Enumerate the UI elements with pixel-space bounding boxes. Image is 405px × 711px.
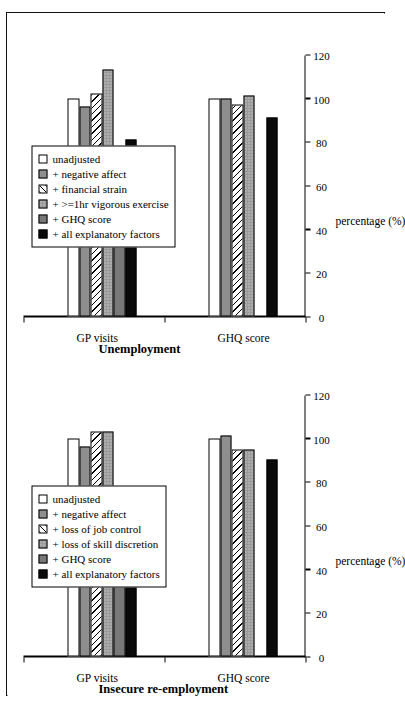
legend-label: + negative affect	[52, 169, 126, 180]
legend-swatch-icon	[38, 230, 47, 239]
value-tick-label: 40	[304, 224, 338, 236]
value-tick-label: 20	[304, 268, 338, 280]
value-axis-title: percentage (%)	[335, 215, 405, 227]
value-tick-label: 80	[304, 477, 338, 489]
legend-label: + GHQ score	[52, 554, 111, 565]
value-axis-title: percentage (%)	[335, 555, 405, 567]
value-tick-label: 60	[304, 181, 338, 193]
legend-item: + all explanatory factors	[38, 227, 168, 242]
category-tick	[305, 658, 306, 663]
value-tick-label: 120	[304, 50, 338, 62]
legend-item: unadjusted	[38, 492, 159, 507]
bar	[231, 449, 243, 656]
legend-item: + loss of job control	[38, 522, 159, 537]
panel-insecure-reemployment: 120100806040200percentage (%)GHQ scoreGP…	[7, 361, 386, 694]
value-tick-label: 100	[304, 433, 338, 445]
bar	[231, 105, 243, 317]
legend-label: + GHQ score	[52, 214, 111, 225]
legend-swatch-icon	[38, 185, 47, 194]
value-tick-label: 80	[304, 137, 338, 149]
value-tick-label: 20	[304, 608, 338, 620]
category-tick	[305, 318, 306, 323]
legend-item: + GHQ score	[38, 212, 168, 227]
bar	[266, 460, 278, 657]
legend-item: + GHQ score	[38, 552, 159, 567]
legend-swatch-icon	[38, 495, 47, 504]
category-tick	[164, 318, 165, 323]
legend: unadjusted+ negative affect+ financial s…	[31, 146, 175, 248]
panel-title: Insecure re-employment	[98, 682, 228, 697]
bar	[220, 436, 232, 657]
bar	[243, 449, 255, 656]
legend-item: + negative affect	[38, 507, 159, 522]
value-tick-label: 100	[304, 93, 338, 105]
bar	[243, 96, 255, 317]
legend-item: + financial strain	[38, 182, 168, 197]
panel-unemployment: 120100806040200percentage (%)GHQ scoreGP…	[7, 21, 386, 354]
legend-swatch-icon	[38, 525, 47, 534]
value-tick-label: 120	[304, 390, 338, 402]
legend-item: + negative affect	[38, 167, 168, 182]
bar	[220, 98, 232, 316]
legend-label: + negative affect	[52, 509, 126, 520]
legend-label: + all explanatory factors	[52, 229, 159, 240]
legend-label: + loss of skill discretion	[52, 539, 158, 550]
legend-swatch-icon	[38, 570, 47, 579]
legend-label: + all explanatory factors	[52, 569, 159, 580]
panel-title: Unemployment	[98, 342, 180, 357]
legend-item: unadjusted	[38, 152, 168, 167]
legend-label: + >=1hr vigorous exercise	[52, 199, 168, 210]
legend-swatch-icon	[38, 510, 47, 519]
legend-item: + all explanatory factors	[38, 567, 159, 582]
legend-item: + >=1hr vigorous exercise	[38, 197, 168, 212]
category-tick	[23, 658, 24, 663]
value-tick-label: 60	[304, 521, 338, 533]
legend-swatch-icon	[38, 540, 47, 549]
legend: unadjusted+ negative affect+ loss of job…	[31, 486, 166, 588]
legend-swatch-icon	[38, 170, 47, 179]
bar	[208, 98, 220, 316]
legend-swatch-icon	[38, 215, 47, 224]
legend-item: + loss of skill discretion	[38, 537, 159, 552]
legend-label: + financial strain	[52, 184, 127, 195]
bar	[208, 438, 220, 656]
legend-label: unadjusted	[52, 154, 100, 165]
legend-swatch-icon	[38, 155, 47, 164]
legend-swatch-icon	[38, 555, 47, 564]
value-tick-label: 0	[304, 652, 338, 664]
bar	[266, 118, 278, 317]
value-tick-label: 40	[304, 564, 338, 576]
category-label: GHQ score	[217, 332, 269, 344]
legend-label: + loss of job control	[52, 524, 141, 535]
category-tick	[23, 318, 24, 323]
category-tick	[164, 658, 165, 663]
rotated-figure-stage: 120100806040200percentage (%)GHQ scoreGP…	[7, 14, 386, 698]
legend-swatch-icon	[38, 200, 47, 209]
value-tick-label: 0	[304, 312, 338, 324]
legend-label: unadjusted	[52, 494, 100, 505]
